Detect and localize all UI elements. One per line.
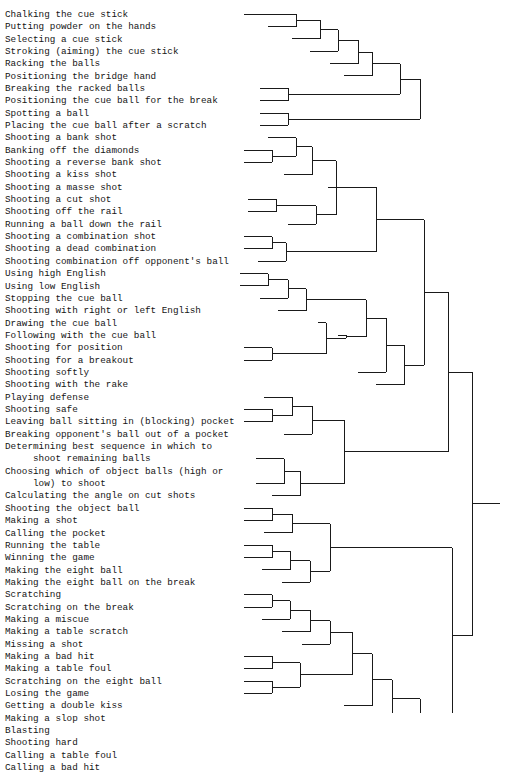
leaf-label: Running the table bbox=[5, 540, 100, 552]
leaf-label: Shooting softly bbox=[5, 367, 89, 379]
leaf-label: Making a slop shot bbox=[5, 713, 106, 725]
leaf-label: Shooting safe bbox=[5, 404, 78, 416]
leaf-label: Shooting for position bbox=[5, 342, 123, 354]
leaf-label: Scratching on the break bbox=[5, 602, 134, 614]
leaf-label: Breaking the racked balls bbox=[5, 83, 145, 95]
leaf-label: Shooting a combination shot bbox=[5, 231, 156, 243]
leaf-label: Shooting a masse shot bbox=[5, 182, 123, 194]
leaf-label: Determining best sequence in which to bbox=[5, 441, 212, 453]
leaf-label: Positioning the bridge hand bbox=[5, 71, 156, 83]
leaf-label: Selecting a cue stick bbox=[5, 34, 123, 46]
leaf-label: Making a bad hit bbox=[5, 651, 95, 663]
leaf-label: Making a table scratch bbox=[5, 626, 128, 638]
leaf-label: Scratching on the eight ball bbox=[5, 676, 162, 688]
leaf-label: Shooting with right or left English bbox=[5, 305, 201, 317]
leaf-label: Leaving ball sitting in (blocking) pocke… bbox=[5, 416, 235, 428]
leaf-label: Shooting a cut shot bbox=[5, 194, 111, 206]
leaf-label: Following with the cue ball bbox=[5, 330, 156, 342]
leaf-label: Running a ball down the rail bbox=[5, 219, 162, 231]
leaf-label: Calculating the angle on cut shots bbox=[5, 490, 195, 502]
leaf-label-continuation: shoot remaining balls bbox=[5, 453, 151, 465]
leaf-label: Shooting a bank shot bbox=[5, 132, 117, 144]
leaf-label: Making the eight ball bbox=[5, 565, 123, 577]
leaf-label: Blasting bbox=[5, 725, 50, 737]
leaf-label: Racking the balls bbox=[5, 58, 100, 70]
leaf-label: Getting a double kiss bbox=[5, 700, 123, 712]
leaf-label: Calling the pocket bbox=[5, 528, 106, 540]
leaf-label: Shooting for a breakout bbox=[5, 355, 134, 367]
leaf-label: Shooting combination off opponent's ball bbox=[5, 256, 229, 268]
leaf-label: Banking off the diamonds bbox=[5, 145, 139, 157]
leaf-label: Making a table foul bbox=[5, 663, 111, 675]
leaf-label: Shooting off the rail bbox=[5, 206, 123, 218]
leaf-label: Shooting a reverse bank shot bbox=[5, 157, 162, 169]
leaf-label: Losing the game bbox=[5, 688, 89, 700]
leaf-label: Using low English bbox=[5, 281, 100, 293]
leaf-label: Choosing which of object balls (high or bbox=[5, 466, 223, 478]
leaf-label: Shooting a dead combination bbox=[5, 243, 156, 255]
leaf-label: Making a miscue bbox=[5, 614, 89, 626]
leaf-label: Making a shot bbox=[5, 515, 78, 527]
leaf-label: Drawing the cue ball bbox=[5, 318, 117, 330]
leaf-label: Playing defense bbox=[5, 392, 89, 404]
leaf-label: Scratching bbox=[5, 589, 61, 601]
leaf-label: Shooting the object ball bbox=[5, 503, 139, 515]
leaf-label: Breaking opponent's ball out of a pocket bbox=[5, 429, 229, 441]
leaf-label-continuation: low) to shoot bbox=[5, 478, 106, 490]
leaf-label: Calling a table foul bbox=[5, 750, 117, 762]
leaf-label: Stopping the cue ball bbox=[5, 293, 123, 305]
leaf-label: Calling a bad hit bbox=[5, 762, 100, 774]
leaf-label: Using high English bbox=[5, 268, 106, 280]
leaf-label: Shooting a kiss shot bbox=[5, 169, 117, 181]
leaf-label: Winning the game bbox=[5, 552, 95, 564]
leaf-label: Stroking (aiming) the cue stick bbox=[5, 46, 179, 58]
leaf-label: Putting powder on the hands bbox=[5, 21, 156, 33]
leaf-label: Placing the cue ball after a scratch bbox=[5, 120, 207, 132]
leaf-label: Positioning the cue ball for the break bbox=[5, 95, 218, 107]
leaf-label: Spotting a ball bbox=[5, 108, 89, 120]
leaf-label: Making the eight ball on the break bbox=[5, 577, 195, 589]
leaf-label: Shooting hard bbox=[5, 737, 78, 749]
leaf-label: Shooting with the rake bbox=[5, 379, 128, 391]
leaf-label: Missing a shot bbox=[5, 639, 83, 651]
leaf-label: Chalking the cue stick bbox=[5, 9, 128, 21]
